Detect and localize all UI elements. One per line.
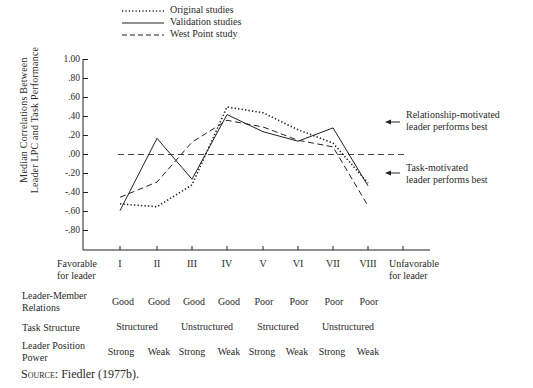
cell: Poor — [279, 296, 319, 307]
favorable-line2: for leader — [57, 270, 97, 282]
cell: Good — [174, 296, 214, 307]
favorable-label: Favorable for leader — [57, 258, 97, 282]
cell: Good — [103, 296, 143, 307]
arrow-left-icon — [385, 171, 391, 176]
relationship-line1: Relationship-motivated — [406, 109, 500, 121]
cell: Weak — [277, 346, 317, 357]
cell: Poor — [314, 296, 354, 307]
cell: Good — [139, 296, 179, 307]
cell: Weak — [348, 346, 388, 357]
row-label-lmr: Leader-Member Relations — [22, 290, 87, 314]
task-line1: Task-motivated — [406, 162, 488, 174]
xtick: III — [177, 258, 207, 269]
source-prefix: Source: — [21, 367, 58, 381]
series-west-point-study — [120, 120, 368, 206]
row-label-task-structure: Task Structure — [22, 322, 80, 334]
series-validation-studies — [120, 115, 368, 211]
xtick: II — [142, 258, 172, 269]
row-label-lpp: Leader Position Power — [22, 340, 85, 364]
cell: Poor — [349, 296, 389, 307]
relationship-line2: leader performs best — [406, 121, 500, 133]
cell: Strong — [242, 346, 282, 357]
group-cell: Unstructured — [172, 321, 242, 332]
favorable-line1: Favorable — [57, 258, 97, 270]
row-label-line1: Leader Position — [22, 340, 85, 352]
xtick: IV — [212, 258, 242, 269]
group-cell: Unstructured — [313, 321, 383, 332]
row-label-line1: Leader-Member — [22, 290, 87, 302]
task-line2: leader performs best — [406, 174, 488, 186]
relationship-annotation: Relationship-motivated leader performs b… — [406, 109, 500, 133]
group-cell: Structured — [102, 321, 172, 332]
task-annotation: Task-motivated leader performs best — [406, 162, 488, 186]
xtick: VIII — [353, 258, 383, 269]
cell: Strong — [312, 346, 352, 357]
xtick: VII — [318, 258, 348, 269]
row-label-line2: Relations — [22, 302, 87, 314]
arrow-left-icon — [385, 120, 391, 125]
cell: Strong — [172, 346, 212, 357]
row-label-line2: Power — [22, 352, 85, 364]
cell: Strong — [101, 346, 141, 357]
unfavorable-line2: for leader — [389, 270, 439, 282]
unfavorable-line1: Unfavorable — [389, 258, 439, 270]
group-cell: Structured — [243, 321, 313, 332]
unfavorable-label: Unfavorable for leader — [389, 258, 439, 282]
series-original-studies — [120, 107, 368, 207]
xtick: V — [248, 258, 278, 269]
source-note: Source: Fiedler (1977b). — [21, 367, 139, 382]
cell: Poor — [244, 296, 284, 307]
source-text: Fiedler (1977b). — [61, 367, 139, 381]
cell: Good — [209, 296, 249, 307]
xtick: I — [105, 258, 135, 269]
xtick: VI — [283, 258, 313, 269]
